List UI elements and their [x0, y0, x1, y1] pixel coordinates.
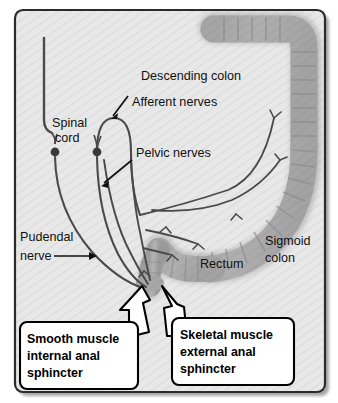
label-pudendal-nerve-line2: nerve	[20, 249, 52, 263]
label-spinal-cord-line2: cord	[55, 131, 80, 145]
label-afferent-nerves: Afferent nerves	[132, 95, 217, 109]
callout-line: Smooth muscle	[27, 332, 119, 346]
label-sigmoid-colon-line2: colon	[265, 251, 295, 265]
label-pelvic-nerves: Pelvic nerves	[136, 146, 211, 160]
callout-line: Skeletal muscle	[180, 328, 273, 342]
label-rectum: Rectum	[200, 257, 243, 271]
label-pudendal-nerve-line1: Pudendal	[20, 230, 73, 244]
callout-line: sphincter	[180, 362, 236, 376]
callout-line: sphincter	[27, 366, 83, 380]
callout-line: internal anal	[27, 349, 100, 363]
label-descending-colon: Descending colon	[141, 69, 241, 83]
label-sigmoid-colon-line1: Sigmoid	[265, 234, 311, 248]
anatomy-figure: Descending colon Afferent nerves Spinal …	[0, 0, 338, 403]
callout-external-anal-sphincter[interactable]: Skeletal muscle external anal sphincter	[172, 318, 294, 385]
callout-line: external anal	[180, 345, 256, 359]
label-spinal-cord-line1: Spinal	[52, 116, 87, 130]
callout-internal-anal-sphincter[interactable]: Smooth muscle internal anal sphincter	[20, 322, 138, 389]
